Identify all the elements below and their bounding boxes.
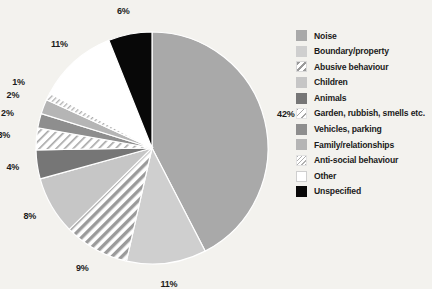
slice-value-label: 9% bbox=[76, 263, 89, 273]
slice-value-label: 4% bbox=[6, 162, 19, 172]
legend-item[interactable]: Anti-social behaviour bbox=[296, 153, 432, 169]
legend-swatch-icon bbox=[296, 124, 307, 135]
legend-swatch-icon bbox=[296, 77, 307, 88]
legend-item[interactable]: Vehicles, parking bbox=[296, 122, 432, 138]
legend-swatch-icon bbox=[296, 108, 307, 119]
legend-item-label: Unspecified bbox=[314, 187, 361, 196]
legend-item[interactable]: Boundary/property bbox=[296, 44, 432, 60]
legend-item-label: Abusive behaviour bbox=[314, 63, 388, 72]
legend-item[interactable]: Unspecified bbox=[296, 184, 432, 200]
slice-value-label: 42% bbox=[277, 109, 294, 119]
legend-item-label: Other bbox=[314, 172, 336, 181]
slice-value-label: 2% bbox=[1, 108, 14, 118]
legend-item[interactable]: Animals bbox=[296, 90, 432, 106]
legend-item[interactable]: Other bbox=[296, 168, 432, 184]
legend-swatch-icon bbox=[296, 46, 307, 57]
legend-swatch-icon bbox=[296, 93, 307, 104]
slice-value-label: 11% bbox=[160, 279, 177, 289]
pie-slices bbox=[36, 32, 268, 264]
legend-item-label: Noise bbox=[314, 32, 337, 41]
legend-item[interactable]: Noise bbox=[296, 28, 432, 44]
pie-svg bbox=[0, 0, 292, 284]
slice-value-label: 8% bbox=[23, 211, 36, 221]
legend-item[interactable]: Children bbox=[296, 75, 432, 91]
slice-value-label: 1% bbox=[12, 77, 25, 87]
legend-swatch-icon bbox=[296, 186, 307, 197]
legend-item-label: Garden, rubbish, smells etc. bbox=[314, 109, 425, 118]
legend-item-label: Boundary/property bbox=[314, 47, 389, 56]
legend-swatch-icon bbox=[296, 139, 307, 150]
slice-value-label: 11% bbox=[51, 39, 68, 49]
legend-item-label: Children bbox=[314, 78, 348, 87]
legend-item-label: Animals bbox=[314, 94, 346, 103]
legend-item-label: Anti-social behaviour bbox=[314, 156, 398, 165]
legend-item[interactable]: Garden, rubbish, smells etc. bbox=[296, 106, 432, 122]
legend-item-label: Vehicles, parking bbox=[314, 125, 382, 134]
legend-swatch-icon bbox=[296, 155, 307, 166]
legend-swatch-icon bbox=[296, 30, 307, 41]
legend-swatch-icon bbox=[296, 61, 307, 72]
pie-plot-area: 42%11%9%8%4%3%2%2%1%11%6% bbox=[0, 0, 292, 284]
slice-value-label: 2% bbox=[7, 90, 20, 100]
legend-item[interactable]: Family/relationships bbox=[296, 137, 432, 153]
legend-swatch-icon bbox=[296, 171, 307, 182]
legend-item[interactable]: Abusive behaviour bbox=[296, 59, 432, 75]
slice-value-label: 3% bbox=[0, 130, 10, 140]
chart-legend: NoiseBoundary/propertyAbusive behaviourC… bbox=[296, 28, 432, 200]
slice-value-label: 6% bbox=[117, 6, 130, 16]
legend-item-label: Family/relationships bbox=[314, 141, 394, 150]
